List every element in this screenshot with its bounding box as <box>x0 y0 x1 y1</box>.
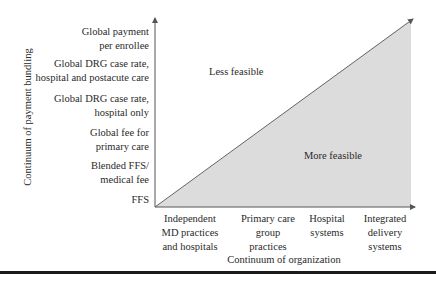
y-level-line: hospital and postacute care <box>36 71 149 85</box>
x-category-independent-md: Independent MD practices and hospitals <box>145 212 235 254</box>
y-level-line: Global fee for <box>90 126 149 140</box>
x-category-line: delivery <box>340 226 430 240</box>
y-level-line: Global DRG case rate, <box>54 92 149 106</box>
y-level-line: Global DRG case rate, <box>36 57 149 71</box>
y-level-line: per enrollee <box>82 39 149 53</box>
more-feasible-label: More feasible <box>304 150 362 161</box>
x-category-line: MD practices <box>145 226 235 240</box>
x-category-line: Integrated <box>340 212 430 226</box>
bottom-rule-divider <box>0 271 436 274</box>
feasibility-diagram: Continuum of payment bundling Global pay… <box>0 0 436 282</box>
y-level-line: hospital only <box>54 106 149 120</box>
y-axis-title: Continuum of payment bundling <box>22 48 33 185</box>
y-level-global-payment-per-enrollee: Global payment per enrollee <box>82 25 149 53</box>
x-category-line: and hospitals <box>145 240 235 254</box>
y-level-ffs: FFS <box>131 193 149 207</box>
y-level-line: medical fee <box>91 173 149 187</box>
x-axis-title: Continuum of organization <box>227 254 341 265</box>
x-category-line: practices <box>223 240 313 254</box>
x-category-integrated-delivery: Integrated delivery systems <box>340 212 430 254</box>
y-level-line: primary care <box>90 140 149 154</box>
y-level-blended-ffs: Blended FFS/ medical fee <box>91 159 149 187</box>
x-category-line: systems <box>340 240 430 254</box>
y-level-drg-hospital-only: Global DRG case rate, hospital only <box>54 92 149 120</box>
y-level-global-fee-primary-care: Global fee for primary care <box>90 126 149 154</box>
y-level-line: Blended FFS/ <box>91 159 149 173</box>
y-level-line: Global payment <box>82 25 149 39</box>
less-feasible-label: Less feasible <box>209 66 264 77</box>
y-level-drg-hospital-postacute: Global DRG case rate, hospital and posta… <box>36 57 149 85</box>
y-level-line: FFS <box>131 193 149 207</box>
x-category-line: Independent <box>145 212 235 226</box>
